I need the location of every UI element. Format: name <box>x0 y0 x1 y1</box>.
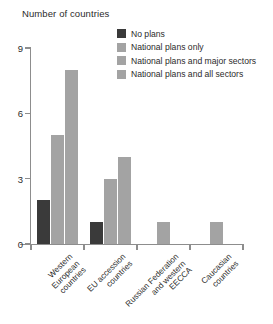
bar <box>104 179 117 244</box>
y-tick-label: 6 <box>3 108 23 119</box>
legend-label: National plans and major sectors <box>131 56 256 66</box>
bar <box>90 222 103 244</box>
bar <box>65 70 78 244</box>
chart-legend: No plansNational plans onlyNational plan… <box>117 27 256 81</box>
x-axis-line <box>20 244 244 245</box>
x-tick-mark <box>242 245 243 250</box>
legend-swatch-icon <box>117 43 126 52</box>
y-tick-label: 9 <box>3 43 23 54</box>
bar <box>37 200 50 244</box>
y-tick-mark <box>25 243 30 244</box>
y-tick-mark <box>25 47 30 48</box>
legend-item: National plans and all sectors <box>117 68 256 81</box>
legend-item: National plans and major sectors <box>117 54 256 67</box>
bar <box>51 135 64 244</box>
legend-swatch-icon <box>117 56 126 65</box>
legend-swatch-icon <box>117 70 126 79</box>
x-tick-mark <box>136 245 137 250</box>
y-tick-label: 3 <box>3 173 23 184</box>
legend-item: National plans only <box>117 41 256 54</box>
y-tick-label: 0 <box>3 239 23 250</box>
chart-axis-title: Number of countries <box>22 8 109 19</box>
x-tick-mark <box>83 245 84 250</box>
bar-chart: Number of countries 0369 Western Europea… <box>0 0 273 324</box>
bar <box>157 222 170 244</box>
legend-swatch-icon <box>117 29 126 38</box>
x-tick-mark <box>189 245 190 250</box>
x-tick-mark <box>30 245 31 250</box>
legend-label: No plans <box>131 29 165 39</box>
y-tick-mark <box>25 178 30 179</box>
legend-item: No plans <box>117 27 256 40</box>
legend-label: National plans and all sectors <box>131 69 243 79</box>
y-tick-mark <box>25 113 30 114</box>
legend-label: National plans only <box>131 42 204 52</box>
bar <box>210 222 223 244</box>
bar <box>118 157 131 244</box>
